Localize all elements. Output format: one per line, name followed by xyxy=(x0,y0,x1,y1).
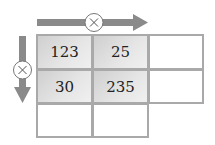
grid-cell-r1c2: 25 xyxy=(92,34,149,70)
grid-cell-r2c3 xyxy=(148,69,204,104)
number-grid: 123 25 30 235 xyxy=(36,34,204,138)
grid-cell-r2c2: 235 xyxy=(92,69,149,104)
grid-cell-r1c3 xyxy=(148,34,204,70)
grid-cell-r1c1: 123 xyxy=(36,34,93,70)
grid-cell-r3c1 xyxy=(36,103,93,138)
multiply-icon-left xyxy=(14,61,32,79)
multiply-icon-top xyxy=(85,14,103,32)
grid-cell-r2c1: 30 xyxy=(36,69,93,104)
grid-cell-r3c2 xyxy=(92,103,149,138)
